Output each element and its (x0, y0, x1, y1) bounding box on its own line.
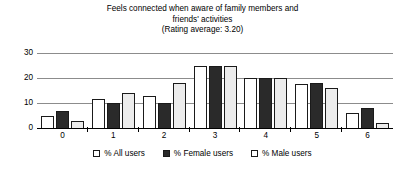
chart-legend: % All users% Female users% Male users (0, 149, 405, 158)
bar-group (240, 53, 291, 128)
bar (274, 78, 287, 128)
bar (173, 83, 186, 128)
x-axis-tick-2: 2 (139, 131, 190, 141)
x-axis-tick-1: 1 (88, 131, 139, 141)
bar (107, 103, 120, 128)
bar (224, 66, 237, 129)
bar (209, 66, 222, 129)
legend-label: % All users (104, 149, 145, 158)
y-axis-tick-10: 10 (5, 99, 33, 107)
legend-item[interactable]: % Male users (251, 149, 312, 158)
bar-group (190, 53, 241, 128)
plot-area (37, 53, 393, 128)
bar (92, 99, 105, 128)
chart-title-line-1: Feels connected when aware of family mem… (0, 4, 405, 15)
bar (376, 123, 389, 128)
bar-group (139, 53, 190, 128)
bar (310, 83, 323, 128)
bar-group (342, 53, 393, 128)
chart-subtitle: (Rating average: 3.20) (0, 25, 405, 36)
x-axis-labels: 0123456 (37, 131, 393, 141)
bar (194, 66, 207, 129)
bar-group (291, 53, 342, 128)
x-axis-tick-6: 6 (342, 131, 393, 141)
bar (325, 88, 338, 128)
bar (295, 84, 308, 128)
x-axis-tick-4: 4 (240, 131, 291, 141)
chart-title-line-2: friends' activities (0, 15, 405, 26)
y-axis-labels: 30 20 10 0 (5, 53, 33, 128)
bar (361, 108, 374, 128)
bar (244, 78, 257, 128)
bar (41, 116, 54, 129)
bar-group (88, 53, 139, 128)
y-axis-tick-0: 0 (5, 124, 33, 132)
x-axis-tick-5: 5 (291, 131, 342, 141)
bar (346, 113, 359, 128)
bar (56, 111, 69, 129)
x-axis-tick-0: 0 (37, 131, 88, 141)
y-axis-tick-20: 20 (5, 74, 33, 82)
bar (259, 78, 272, 128)
bar (143, 96, 156, 129)
bar (71, 121, 84, 129)
bar (158, 103, 171, 128)
legend-item[interactable]: % All users (93, 149, 145, 158)
bar-chart: Feels connected when aware of family mem… (0, 0, 405, 174)
legend-swatch-icon (251, 150, 258, 157)
bar-group (37, 53, 88, 128)
bar-groups (37, 53, 393, 128)
legend-swatch-icon (163, 150, 170, 157)
legend-swatch-icon (93, 150, 100, 157)
x-axis-line (37, 128, 393, 129)
x-axis-tick-3: 3 (190, 131, 241, 141)
chart-title: Feels connected when aware of family mem… (0, 4, 405, 36)
legend-item[interactable]: % Female users (163, 149, 233, 158)
bar (122, 93, 135, 128)
legend-label: % Female users (174, 149, 233, 158)
y-axis-tick-30: 30 (5, 49, 33, 57)
legend-label: % Male users (262, 149, 312, 158)
